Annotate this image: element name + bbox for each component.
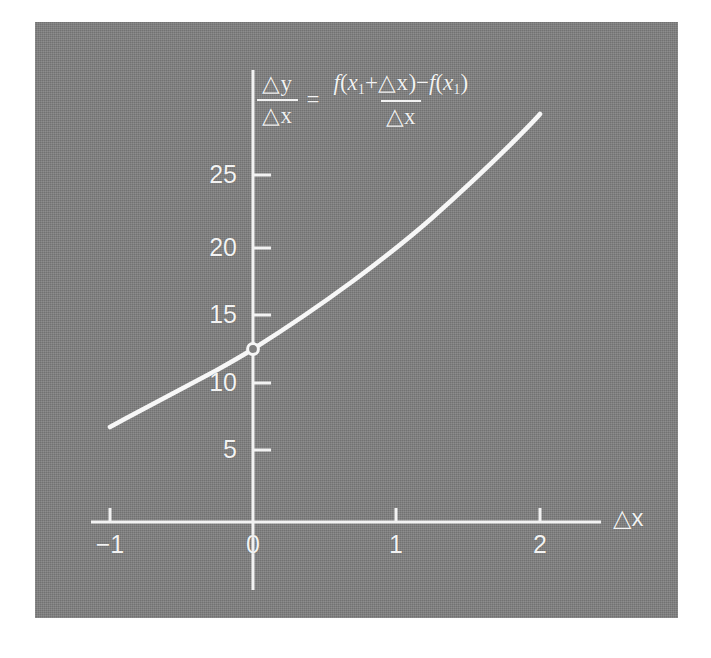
chart-panel: △y △x = f(x1+△x)−f(x1) △x 25 20 15 10 5 … — [35, 22, 678, 618]
open-paren-2: ( — [435, 70, 443, 95]
delta-x-term: △x — [378, 70, 409, 95]
x-axis-label: △x — [613, 504, 644, 532]
minus-sign: − — [416, 70, 429, 95]
y-tick-label-25: 25 — [185, 160, 237, 189]
lhs-numerator: △y — [257, 71, 298, 99]
x-tick-label-2: 2 — [514, 530, 566, 559]
rhs-numerator: f(x1+△x)−f(x1) — [328, 70, 473, 100]
y-tick-label-10: 10 — [185, 368, 237, 397]
open-paren-1: ( — [340, 70, 348, 95]
x-tick-label-0: 0 — [227, 530, 279, 559]
subscript-1: 1 — [358, 81, 365, 97]
lhs-denominator: △x — [257, 99, 298, 129]
x-tick-label-1: 1 — [370, 530, 422, 559]
y-tick-label-20: 20 — [185, 233, 237, 262]
y-tick-label-15: 15 — [185, 300, 237, 329]
formula-expression: △y △x = f(x1+△x)−f(x1) △x — [257, 70, 473, 130]
close-paren-2: ) — [460, 70, 468, 95]
rhs-denominator: △x — [381, 100, 422, 130]
rhs-fraction: f(x1+△x)−f(x1) △x — [328, 70, 473, 130]
curve-difference-quotient — [110, 114, 540, 427]
x-symbol-1: x — [348, 70, 358, 95]
figure-root: △y △x = f(x1+△x)−f(x1) △x 25 20 15 10 5 … — [0, 0, 711, 658]
open-circle-marker — [248, 344, 259, 355]
x-tick-label-minus1: −1 — [84, 530, 136, 559]
plus-sign: + — [365, 70, 378, 95]
lhs-fraction: △y △x — [257, 71, 298, 129]
equals-sign: = — [305, 87, 322, 113]
y-tick-label-5: 5 — [185, 435, 237, 464]
x-symbol-2: x — [443, 70, 453, 95]
close-paren-1: ) — [408, 70, 416, 95]
